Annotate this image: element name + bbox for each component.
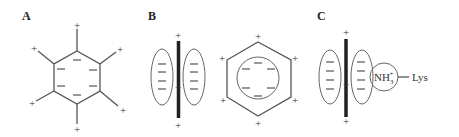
plus-sign: + bbox=[117, 43, 123, 55]
panel-a-label: A bbox=[22, 9, 31, 23]
negative-face-charges bbox=[242, 63, 275, 96]
plus-sign: + bbox=[343, 78, 349, 90]
plus-sign: + bbox=[220, 94, 226, 106]
panel-c-label: C bbox=[317, 9, 326, 23]
plus-sign: + bbox=[255, 117, 261, 129]
ring-side-view: + + + bbox=[151, 29, 205, 131]
ammonium-label: NH3+ bbox=[374, 70, 394, 86]
negative-face-charges bbox=[57, 60, 97, 95]
plus-sign: + bbox=[175, 119, 181, 131]
lysine-label: Lys bbox=[412, 71, 428, 83]
plus-sign: + bbox=[175, 29, 181, 41]
plus-sign: + bbox=[29, 97, 35, 109]
panel-c: C + + + NH3+ Lys bbox=[317, 9, 428, 127]
panel-b: B + + + + + + bbox=[148, 9, 298, 131]
ring-side-view: + + + bbox=[319, 26, 373, 127]
left-electron-lobe bbox=[319, 50, 341, 104]
plus-sign: + bbox=[255, 30, 261, 42]
panel-b-label: B bbox=[148, 9, 156, 23]
plus-sign: + bbox=[120, 104, 126, 116]
plus-sign: + bbox=[74, 123, 80, 135]
hexagon-spokes bbox=[36, 29, 118, 124]
lysine-cation: NH3+ Lys bbox=[370, 63, 428, 91]
plus-sign: + bbox=[292, 94, 298, 106]
plus-sign: + bbox=[292, 52, 298, 64]
ring-top-view: + + + + + + bbox=[219, 30, 298, 129]
plus-sign: + bbox=[219, 52, 225, 64]
plus-sign: + bbox=[175, 81, 181, 93]
cation-pi-diagram: A + + + + + + bbox=[0, 0, 459, 137]
plus-sign: + bbox=[74, 19, 80, 31]
right-electron-lobe bbox=[183, 49, 205, 105]
plus-sign: + bbox=[343, 115, 349, 127]
plus-sign: + bbox=[343, 26, 349, 38]
left-electron-lobe bbox=[151, 49, 173, 105]
plus-sign: + bbox=[31, 42, 37, 54]
panel-a: A + + + + + + bbox=[22, 9, 126, 135]
benzene-hexagon bbox=[54, 51, 100, 104]
